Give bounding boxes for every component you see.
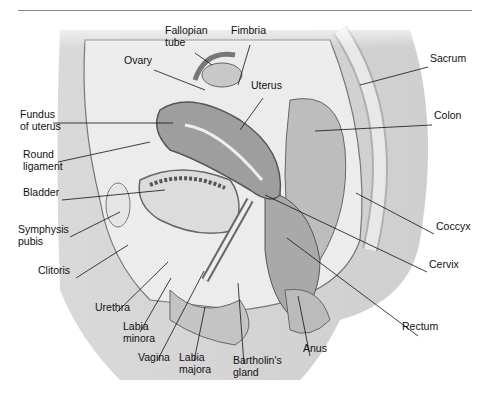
label-clitoris: Clitoris: [38, 264, 70, 276]
label-fimbria: Fimbria: [231, 24, 266, 36]
label-symphysis-pubis: Symphysis pubis: [18, 223, 69, 247]
label-fundus-of-uterus: Fundus of uterus: [20, 108, 61, 132]
label-uterus: Uterus: [251, 79, 282, 91]
label-labia-minora: Labia minora: [123, 320, 155, 344]
label-round-ligament: Round ligament: [23, 148, 63, 172]
label-urethra: Urethra: [95, 301, 130, 313]
label-colon: Colon: [434, 109, 461, 121]
label-bladder: Bladder: [23, 186, 59, 198]
anatomy-illustration: [0, 0, 487, 403]
label-coccyx: Coccyx: [436, 220, 470, 232]
label-fallopian-tube: Fallopian tube: [165, 24, 208, 48]
label-labia-majora: Labia majora: [179, 351, 211, 375]
label-bartholins-gland: Bartholin's gland: [233, 354, 282, 378]
label-sacrum: Sacrum: [430, 52, 466, 64]
label-vagina: Vagina: [138, 351, 170, 363]
label-anus: Anus: [303, 342, 327, 354]
label-rectum: Rectum: [402, 320, 438, 332]
label-cervix: Cervix: [429, 258, 459, 270]
label-ovary: Ovary: [124, 54, 152, 66]
